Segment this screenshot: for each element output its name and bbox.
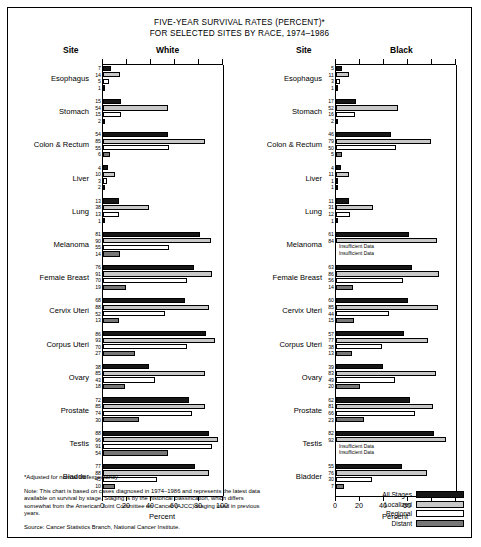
legend-swatch [416, 501, 464, 508]
bar-regional [336, 112, 355, 117]
bar-group: Melanoma81905514 [103, 231, 223, 264]
bar-value-label: 15 [321, 317, 336, 324]
site-label: Prostate [236, 406, 322, 415]
bar-row: 55 [103, 145, 223, 152]
bar-row: 91 [103, 271, 223, 278]
bar-distant [103, 285, 126, 290]
bar-value-label: 91 [88, 443, 103, 450]
bar-value-label: 18 [88, 383, 103, 390]
bar-row: 38 [103, 364, 223, 371]
bar-value-label: 13 [88, 317, 103, 324]
bar-row: 30 [103, 417, 223, 424]
bar-row: 88 [103, 304, 223, 311]
bar-row: 11 [336, 72, 456, 79]
bar-row: 54 [103, 450, 223, 457]
bar-distant [103, 417, 139, 422]
bar-localized [336, 72, 349, 77]
bar-value-label: 1 [321, 85, 336, 92]
bar-value-label: 72 [88, 397, 103, 404]
bar-regional [336, 79, 340, 84]
header-site-white: Site [63, 45, 79, 55]
bar-row: 57 [336, 331, 456, 338]
bar-row: 13 [103, 198, 223, 205]
bar-value-label: 86 [321, 271, 336, 278]
bar-all-stages [336, 99, 356, 104]
bar-value-label: 56 [321, 277, 336, 284]
bar-value-label: 14 [88, 72, 103, 79]
site-label: Testis [236, 439, 322, 448]
bar-group: Colon & Rectum5485556 [103, 131, 223, 164]
bar-value-label: 88 [88, 430, 103, 437]
bar-row: 54 [103, 131, 223, 138]
site-label: Liver [236, 174, 322, 183]
bar-value-label: 23 [321, 417, 336, 424]
bar-localized [103, 404, 205, 409]
bar-regional [336, 311, 389, 316]
bar-row: 55 [336, 463, 456, 470]
bar-value-label: 6 [88, 151, 103, 158]
bar-row: Insufficient Data [336, 251, 456, 258]
bar-distant [336, 185, 338, 190]
bar-value-label: 14 [88, 251, 103, 258]
bar-value-label: 50 [321, 145, 336, 152]
bar-distant [336, 318, 354, 323]
bar-row: 5 [336, 151, 456, 158]
bar-row: 83 [336, 370, 456, 377]
bar-value-label: 17 [321, 98, 336, 105]
bar-group: Prostate62816623 [336, 397, 456, 430]
bar-all-stages [103, 198, 119, 203]
bar-value-label: 19 [88, 284, 103, 291]
bar-distant [103, 318, 119, 323]
bar-value-label: 38 [88, 204, 103, 211]
bar-localized [336, 139, 431, 144]
bar-all-stages [336, 298, 408, 303]
bar-distant [103, 85, 105, 90]
bar-value-label: 88 [88, 304, 103, 311]
bar-value-label: 39 [321, 364, 336, 371]
legend-label: Distant [391, 519, 412, 528]
panel-black: Esophagus51131Stomach1752162Colon & Rect… [263, 59, 465, 521]
bar-row: 18 [103, 383, 223, 390]
bar-row: 7 [336, 483, 456, 490]
bar-regional [103, 311, 165, 316]
bar-value-label: 85 [88, 370, 103, 377]
bar-group: Liver41111 [336, 165, 456, 198]
bar-regional [336, 178, 338, 183]
bar-all-stages [103, 331, 206, 336]
site-label: Lung [3, 207, 89, 216]
bar-row: 82 [336, 430, 456, 437]
bar-value-label: 85 [321, 304, 336, 311]
bar-row: 15 [103, 98, 223, 105]
bar-value-label: 66 [321, 410, 336, 417]
bar-row: 10 [103, 171, 223, 178]
bar-value-label: 13 [88, 211, 103, 218]
bar-value-label: 15 [88, 98, 103, 105]
site-label: Lung [236, 207, 322, 216]
bar-value-label: 79 [321, 138, 336, 145]
bar-localized [336, 238, 437, 243]
bar-all-stages [336, 431, 434, 436]
bar-value-label: 27 [88, 350, 103, 357]
bar-group: Esophagus51131 [336, 65, 456, 98]
bar-distant [336, 119, 338, 124]
bar-value-label: 3 [321, 78, 336, 85]
bar-value-label: 83 [321, 370, 336, 377]
bar-regional [103, 145, 169, 150]
bar-row: 44 [336, 311, 456, 318]
bar-value-label: 84 [321, 238, 336, 245]
bar-value-label: 76 [321, 470, 336, 477]
bar-regional [103, 178, 107, 183]
bar-distant [103, 119, 105, 124]
bar-all-stages [336, 265, 412, 270]
bar-distant [103, 185, 105, 190]
bar-all-stages [336, 464, 402, 469]
site-label: Liver [3, 174, 89, 183]
insufficient-data-label: Insufficient Data [337, 244, 374, 250]
bar-value-label: 43 [88, 377, 103, 384]
bar-all-stages [103, 132, 168, 137]
bar-value-label: 3 [88, 178, 103, 185]
title-line-1: FIVE-YEAR SURVIVAL RATES (PERCENT)* [8, 18, 471, 29]
bar-value-label: 1 [321, 218, 336, 225]
bar-row: 1 [336, 178, 456, 185]
bar-value-label: 2 [88, 184, 103, 191]
